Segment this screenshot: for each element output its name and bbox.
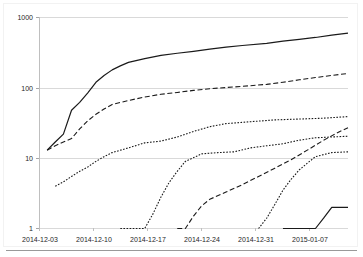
chart-container: 1000 100 10 1 2014-12-03 2014-12-10 2014… — [0, 0, 363, 257]
x-axis-label-2: 2014-12-17 — [130, 236, 166, 243]
x-axis-label-0: 2014-12-03 — [22, 236, 58, 243]
y-axis-label-100: 100 — [2, 85, 33, 92]
x-axis-label-3: 2014-12-24 — [184, 236, 220, 243]
x-axis-label-4: 2014-12-31 — [238, 236, 274, 243]
x-axis-label-1: 2014-12-10 — [76, 236, 112, 243]
line-chart-plot — [0, 0, 363, 257]
y-axis-label-10: 10 — [2, 155, 33, 162]
y-axis-label-1: 1 — [2, 225, 33, 232]
x-axis-label-5: 2015-01-07 — [292, 236, 328, 243]
y-axis-label-1000: 1000 — [2, 14, 33, 21]
chart-outer-border — [4, 4, 358, 247]
